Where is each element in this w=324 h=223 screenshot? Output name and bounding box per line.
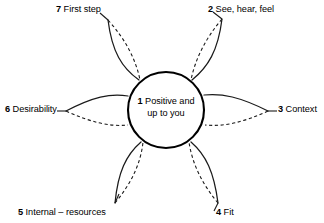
petal-label-see-hear-feel: 2 See, hear, feel xyxy=(208,4,274,15)
center-text-line2: up to you xyxy=(147,108,184,118)
petal-number-fit: 4 xyxy=(216,207,221,217)
petal-shape-fit xyxy=(189,142,218,203)
petal-text-context: Context xyxy=(286,104,317,114)
petal-text-fit: Fit xyxy=(224,207,234,217)
petal-inner-curve-see-hear-feel xyxy=(191,19,222,80)
leader-line-first-step xyxy=(100,13,108,20)
petal-shape-context xyxy=(204,95,268,126)
petal-label-fit: 4 Fit xyxy=(216,207,234,218)
center-label: 1 Positive andup to you xyxy=(128,96,204,119)
petal-outer-curve-desirability xyxy=(66,95,128,111)
petal-label-desirability: 6 Desirability xyxy=(5,104,57,115)
petal-number-desirability: 6 xyxy=(5,104,10,114)
petal-inner-curve-context xyxy=(205,111,268,125)
petal-shape-see-hear-feel xyxy=(191,19,222,80)
petal-outer-curve-first-step xyxy=(108,20,139,80)
petal-number-first-step: 7 xyxy=(56,4,61,14)
petal-outer-curve-fit xyxy=(191,142,218,203)
petal-label-context: 3 Context xyxy=(278,104,317,115)
flower-diagram: 1 Positive andup to you 7 First step 2 S… xyxy=(0,0,324,223)
petal-label-first-step: 7 First step xyxy=(56,4,101,15)
petal-inner-curve-first-step xyxy=(108,20,140,80)
petal-inner-curve-internal-resources xyxy=(115,142,143,203)
petal-shape-internal-resources xyxy=(115,142,143,203)
petal-text-desirability: Desirability xyxy=(13,104,57,114)
petal-shape-first-step xyxy=(108,20,140,80)
petal-text-first-step: First step xyxy=(64,4,101,14)
petal-inner-curve-fit xyxy=(189,142,218,203)
petal-text-see-hear-feel: See, hear, feel xyxy=(216,4,275,14)
petal-outer-curve-context xyxy=(204,95,268,111)
petal-label-internal-resources: 5 Internal – resources xyxy=(18,207,106,218)
petal-text-internal-resources: Internal – resources xyxy=(26,207,106,217)
petal-number-internal-resources: 5 xyxy=(18,207,23,217)
petal-inner-curve-desirability xyxy=(66,111,128,125)
petal-number-context: 3 xyxy=(278,104,283,114)
petal-outer-curve-internal-resources xyxy=(115,142,141,203)
petal-number-see-hear-feel: 2 xyxy=(208,4,213,14)
petal-shape-desirability xyxy=(66,95,128,125)
center-text-line1: Positive and xyxy=(145,96,194,106)
center-number: 1 xyxy=(137,96,142,106)
petal-outer-curve-see-hear-feel xyxy=(192,19,222,80)
